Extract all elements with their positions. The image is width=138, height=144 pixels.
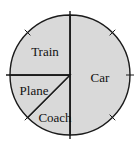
slice-label-car: Car <box>91 70 110 85</box>
pie-chart: Car Coach Plane Train <box>0 0 138 144</box>
slice-label-plane: Plane <box>20 83 49 98</box>
slice-label-coach: Coach <box>38 110 72 125</box>
slice-label-train: Train <box>31 44 59 59</box>
